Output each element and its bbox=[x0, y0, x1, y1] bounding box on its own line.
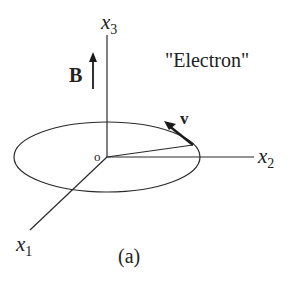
x2-axis-label: x2 bbox=[258, 146, 274, 171]
radius-line bbox=[107, 145, 193, 157]
x3-subscript: 3 bbox=[110, 22, 117, 37]
electron-orbit-diagram: x3 x2 x1 B "Electron" v O (a) bbox=[0, 0, 289, 285]
x1-axis-label: x1 bbox=[16, 234, 32, 259]
b-field-label: B bbox=[69, 65, 82, 85]
diagram-drawing bbox=[0, 0, 289, 285]
x1-base: x bbox=[16, 232, 25, 256]
x3-base: x bbox=[101, 10, 110, 34]
b-field-arrowhead-icon bbox=[89, 52, 97, 62]
electron-label: "Electron" bbox=[165, 50, 249, 70]
x2-base: x bbox=[258, 144, 267, 168]
x1-subscript: 1 bbox=[25, 244, 32, 259]
velocity-arrow bbox=[168, 125, 193, 145]
x2-subscript: 2 bbox=[267, 156, 274, 171]
velocity-label: v bbox=[180, 110, 189, 127]
figure-caption: (a) bbox=[118, 246, 140, 266]
x3-axis-label: x3 bbox=[101, 12, 117, 37]
origin-label: O bbox=[94, 150, 101, 163]
x1-axis bbox=[30, 157, 107, 230]
